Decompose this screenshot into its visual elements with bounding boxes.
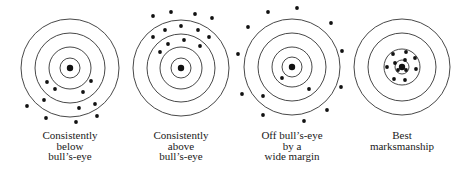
shot-dot (404, 50, 408, 54)
caption-line: Off bull’s-eye (237, 130, 347, 141)
shot-dot (392, 77, 396, 81)
bullseye (399, 64, 405, 70)
shot-dot (393, 61, 397, 65)
shot-dot (25, 104, 29, 108)
caption-line: Best (347, 130, 457, 141)
shot-dot (45, 80, 49, 84)
caption-line: Consistently (15, 130, 125, 141)
shot-dot (414, 67, 418, 71)
shot-dot (210, 16, 214, 20)
shot-dot (166, 42, 170, 46)
shot-dot (44, 116, 48, 120)
shot-dot (207, 35, 211, 39)
caption-line: bull’s-eye (126, 151, 236, 162)
shot-dot (280, 76, 284, 80)
shot-dot (261, 113, 265, 117)
shot-dot (151, 35, 155, 39)
shot-dot (179, 24, 183, 28)
bullseye (178, 65, 184, 71)
target-caption-below: Consistentlybelowbull’s-eye (15, 130, 125, 162)
caption-line: marksmanship (347, 141, 457, 152)
shot-dot (385, 65, 389, 69)
shot-dot (151, 14, 155, 18)
caption-line: Consistently (126, 130, 236, 141)
shot-dot (413, 56, 417, 60)
shot-dot (261, 94, 265, 98)
shot-dot (325, 108, 329, 112)
shot-dot (246, 25, 250, 29)
shot-dot (93, 102, 97, 106)
shot-dot (81, 90, 85, 94)
shot-dot (89, 79, 93, 83)
target-caption-above: Consistentlyabovebull’s-eye (126, 130, 236, 162)
shot-dot (266, 10, 270, 14)
shot-dot (198, 44, 202, 48)
shot-dot (77, 106, 81, 110)
caption-line: bull’s-eye (15, 151, 125, 162)
shot-dot (329, 21, 333, 25)
shot-dot (340, 49, 344, 53)
shot-dot (396, 68, 400, 72)
shot-dot (391, 52, 395, 56)
shot-dot (169, 10, 173, 14)
shot-dot (158, 50, 162, 54)
shot-dot (404, 68, 408, 72)
target-below (21, 19, 119, 124)
shot-dot (196, 28, 200, 32)
shot-dot (163, 28, 167, 32)
target-above (133, 10, 229, 116)
bullseye (289, 64, 295, 70)
shot-dot (403, 58, 407, 62)
target-caption-wide-margin: Off bull’s-eyeby awide margin (237, 130, 347, 162)
shot-dot (240, 92, 244, 96)
shot-dot (74, 120, 78, 124)
shot-dot (95, 114, 99, 118)
shot-dot (307, 87, 311, 91)
shot-dot (295, 6, 299, 10)
target-best (354, 19, 450, 115)
shot-dot (339, 85, 343, 89)
target-caption-best: Bestmarksmanship (347, 130, 457, 151)
bullseye (67, 65, 73, 71)
shot-dot (42, 98, 46, 102)
shot-dot (403, 78, 407, 82)
shot-dot (302, 119, 306, 123)
caption-line: wide margin (237, 151, 347, 162)
shot-dot (53, 87, 57, 91)
shot-dot (193, 12, 197, 16)
shot-dot (236, 52, 240, 56)
target-wide-margin (236, 6, 344, 123)
shot-dot (182, 38, 186, 42)
